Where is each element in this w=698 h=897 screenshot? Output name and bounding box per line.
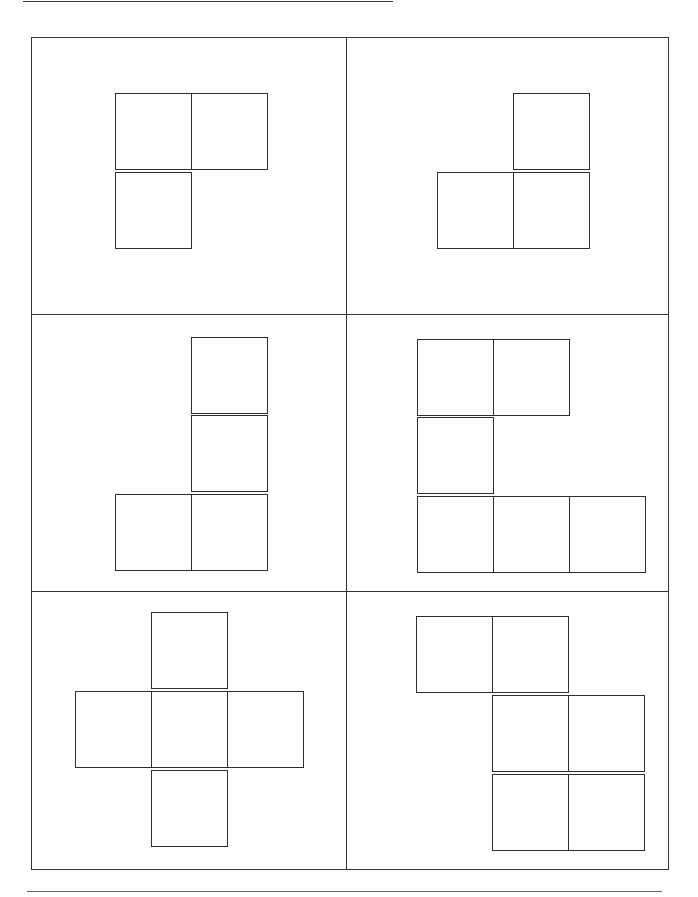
unit-square xyxy=(115,494,192,571)
unit-square xyxy=(227,691,304,768)
unit-square xyxy=(191,93,268,170)
unit-square xyxy=(151,612,228,689)
bottom-rule xyxy=(27,891,662,892)
unit-square xyxy=(75,691,152,768)
unit-square xyxy=(191,415,268,492)
unit-square xyxy=(492,695,569,772)
unit-square xyxy=(191,337,268,414)
unit-square xyxy=(493,496,570,573)
worksheet-page xyxy=(0,0,698,897)
horizontal-divider-1 xyxy=(31,314,669,315)
unit-square xyxy=(417,496,494,573)
unit-square xyxy=(191,494,268,571)
unit-square xyxy=(492,616,569,693)
unit-square xyxy=(151,691,228,768)
vertical-divider xyxy=(346,37,347,870)
unit-square xyxy=(437,172,514,249)
unit-square xyxy=(416,616,493,693)
unit-square xyxy=(417,417,494,494)
unit-square xyxy=(492,774,569,851)
unit-square xyxy=(151,770,228,847)
unit-square xyxy=(493,339,570,416)
horizontal-divider-2 xyxy=(31,591,669,592)
unit-square xyxy=(568,695,645,772)
unit-square xyxy=(417,339,494,416)
unit-square xyxy=(568,774,645,851)
unit-square xyxy=(115,172,192,249)
unit-square xyxy=(513,172,590,249)
unit-square xyxy=(513,93,590,170)
unit-square xyxy=(115,93,192,170)
unit-square xyxy=(569,496,646,573)
top-rule xyxy=(23,1,393,2)
